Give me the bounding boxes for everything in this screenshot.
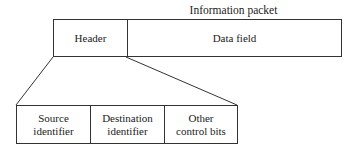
expansion-line-right	[126, 57, 237, 105]
destination-identifier-field: Destination identifier	[90, 106, 164, 143]
header-expansion-box: Source identifier Destination identifier…	[16, 105, 238, 144]
other-control-bits-line1: Other	[188, 112, 213, 125]
expansion-line-left	[16, 57, 53, 105]
other-control-bits-field: Other control bits	[164, 106, 237, 143]
source-identifier-field: Source identifier	[17, 106, 90, 143]
source-identifier-line1: Source	[38, 112, 69, 125]
destination-identifier-line1: Destination	[102, 112, 153, 125]
source-identifier-line2: identifier	[33, 125, 73, 138]
destination-identifier-line2: identifier	[107, 125, 147, 138]
other-control-bits-line2: control bits	[176, 125, 226, 138]
